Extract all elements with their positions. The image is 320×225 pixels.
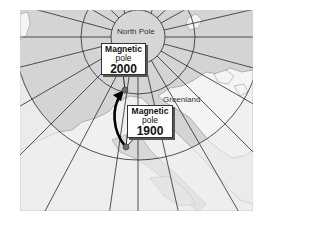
pole-1900-year: 1900	[128, 125, 172, 138]
magnetic-pole-1900-box: Magnetic pole 1900	[127, 105, 173, 138]
greenland-label: Greenland	[163, 95, 200, 104]
north-pole-label: North Pole	[117, 27, 155, 36]
magnetic-pole-2000-box: Magnetic pole 2000	[101, 43, 146, 75]
pole-2000-dot	[122, 87, 128, 93]
pole-2000-year: 2000	[102, 63, 145, 76]
pole-1900-dot	[123, 144, 129, 150]
